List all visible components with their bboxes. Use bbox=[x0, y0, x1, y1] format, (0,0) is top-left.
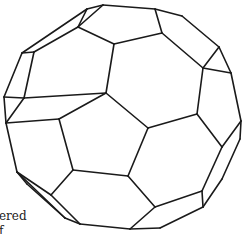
polyhedron-edge bbox=[155, 9, 182, 16]
polyhedron-edge bbox=[22, 52, 34, 53]
polyhedron-edge bbox=[155, 9, 162, 33]
polyhedron-edge bbox=[128, 128, 148, 176]
polyhedron-edge bbox=[130, 207, 155, 229]
polyhedron-edge bbox=[197, 68, 203, 114]
polyhedron-edge bbox=[162, 33, 203, 68]
caption-text-line-2: f bbox=[0, 224, 3, 234]
polyhedron-edge bbox=[80, 224, 130, 229]
polyhedron-edge bbox=[17, 172, 51, 195]
polyhedron-edge bbox=[4, 97, 24, 98]
polyhedron-edge bbox=[4, 97, 6, 123]
polyhedron-edge bbox=[24, 93, 106, 98]
polyhedron-edge bbox=[203, 68, 231, 73]
polyhedron-edge bbox=[222, 139, 240, 179]
polyhedron-edge bbox=[59, 93, 106, 119]
polyhedron-edge bbox=[155, 191, 202, 207]
polyhedron-edge bbox=[6, 123, 17, 172]
polyhedron-edge bbox=[203, 47, 219, 68]
polyhedron-edge bbox=[202, 191, 203, 207]
polyhedron-edge bbox=[4, 53, 22, 97]
polyhedron-edge bbox=[106, 44, 114, 93]
polyhedron-edge bbox=[6, 98, 24, 123]
polyhedron-edge bbox=[128, 176, 155, 207]
polyhedron-edge bbox=[182, 16, 219, 47]
polyhedron-edge bbox=[103, 5, 155, 9]
polyhedron-edge bbox=[197, 114, 222, 147]
polyhedron-edge bbox=[148, 114, 197, 128]
polyhedron-edge bbox=[78, 27, 114, 44]
polyhedron-edge bbox=[130, 228, 160, 229]
polyhedron-edge bbox=[24, 52, 34, 98]
polyhedron-edge bbox=[51, 170, 73, 195]
polyhedron-edge bbox=[73, 170, 128, 176]
polyhedron-edge bbox=[22, 9, 87, 53]
polyhedron-edge bbox=[240, 121, 241, 139]
polyhedron-edge bbox=[114, 33, 162, 44]
caption-text-line-1: ered bbox=[0, 209, 27, 223]
polyhedron-edge bbox=[59, 119, 73, 170]
polyhedron-edge bbox=[231, 73, 241, 121]
polyhedron-edge bbox=[106, 93, 148, 128]
polyhedron-edge bbox=[6, 119, 59, 123]
polyhedron-edge bbox=[160, 207, 203, 228]
soccer-ball-polyhedron-diagram bbox=[0, 0, 245, 234]
polyhedron-edge bbox=[219, 47, 231, 73]
